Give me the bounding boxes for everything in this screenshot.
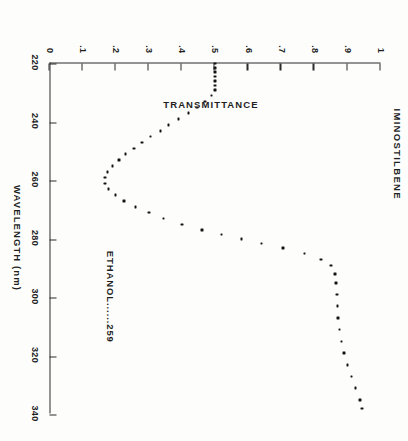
data-point	[346, 363, 349, 366]
data-point	[107, 187, 110, 190]
data-point	[122, 199, 125, 202]
y-tick	[246, 63, 247, 70]
y-tick-label: .4	[176, 45, 186, 53]
data-point	[329, 264, 332, 267]
y-axis-title: TRANSMITTANCE	[45, 98, 376, 109]
data-point	[103, 176, 106, 179]
data-point	[340, 340, 343, 343]
data-point	[213, 70, 216, 73]
y-tick	[114, 63, 115, 70]
y-tick	[379, 63, 380, 70]
x-tick-label: 320	[29, 346, 39, 362]
data-point	[111, 164, 114, 167]
data-point	[210, 94, 213, 97]
y-tick-label: .6	[243, 45, 253, 53]
x-tick	[50, 122, 57, 123]
y-tick-label: .5	[210, 45, 220, 53]
x-tick-label: 260	[29, 171, 39, 187]
y-tick	[147, 63, 148, 70]
data-point	[336, 304, 339, 307]
data-point	[319, 258, 322, 261]
y-tick	[312, 63, 313, 70]
y-tick-label: .8	[309, 45, 319, 53]
data-point	[147, 211, 150, 214]
x-tick-label: 280	[29, 229, 39, 245]
plot-area	[49, 62, 380, 413]
data-point	[187, 111, 190, 114]
solvent-annotation: ETHANOL......259	[104, 250, 115, 342]
y-tick-label: 0	[44, 48, 54, 53]
y-tick	[279, 63, 280, 70]
x-tick	[50, 356, 57, 357]
data-point	[177, 117, 180, 120]
data-point	[335, 293, 338, 296]
data-point	[354, 386, 357, 389]
data-point	[334, 281, 337, 284]
data-point	[114, 193, 117, 196]
y-tick	[48, 63, 49, 70]
data-point	[213, 75, 216, 78]
data-point	[162, 217, 165, 220]
data-point	[140, 141, 143, 144]
data-point	[336, 316, 339, 319]
data-point	[333, 272, 336, 275]
data-point	[132, 147, 135, 150]
x-tick	[50, 414, 57, 415]
data-point	[103, 182, 106, 185]
x-axis-title: WAVELENGTH (nm)	[11, 62, 22, 413]
data-point	[200, 228, 203, 231]
x-tick	[50, 63, 57, 64]
data-point	[220, 233, 223, 236]
data-point	[358, 398, 361, 401]
data-point	[281, 246, 284, 249]
data-point	[159, 129, 162, 132]
data-point	[149, 135, 152, 138]
data-point	[361, 407, 364, 410]
figure-page: IMINOSTILBENE 220240260280300320340 0.1.…	[0, 0, 408, 441]
data-point	[106, 170, 109, 173]
data-point	[303, 252, 306, 255]
data-point	[180, 223, 183, 226]
data-point	[240, 237, 243, 240]
data-point	[213, 88, 216, 91]
x-tick-label: 300	[29, 288, 39, 304]
data-point	[134, 205, 137, 208]
data-point	[213, 79, 216, 82]
x-tick-label: 220	[29, 54, 39, 70]
x-tick-label: 240	[29, 112, 39, 128]
data-point	[124, 152, 127, 155]
x-tick	[50, 180, 57, 181]
x-tick-label: 340	[29, 405, 39, 421]
y-tick	[213, 63, 214, 70]
x-tick	[50, 239, 57, 240]
y-tick	[346, 63, 347, 70]
plot-title: IMINOSTILBENE	[391, 62, 402, 413]
y-tick-label: .9	[342, 45, 352, 53]
data-point	[350, 375, 353, 378]
data-point	[260, 242, 263, 245]
data-point	[342, 351, 345, 354]
y-tick-label: .7	[276, 45, 286, 53]
y-tick-label: .3	[143, 45, 153, 53]
y-tick-label: 1	[375, 48, 385, 53]
data-point	[117, 158, 120, 161]
y-tick	[81, 63, 82, 70]
data-point	[167, 123, 170, 126]
data-point	[338, 328, 341, 331]
y-tick-label: .1	[77, 45, 87, 53]
y-tick-label: .2	[110, 45, 120, 53]
rotated-figure: IMINOSTILBENE 220240260280300320340 0.1.…	[0, 0, 408, 441]
data-point	[213, 84, 216, 87]
x-tick	[50, 297, 57, 298]
y-tick	[180, 63, 181, 70]
